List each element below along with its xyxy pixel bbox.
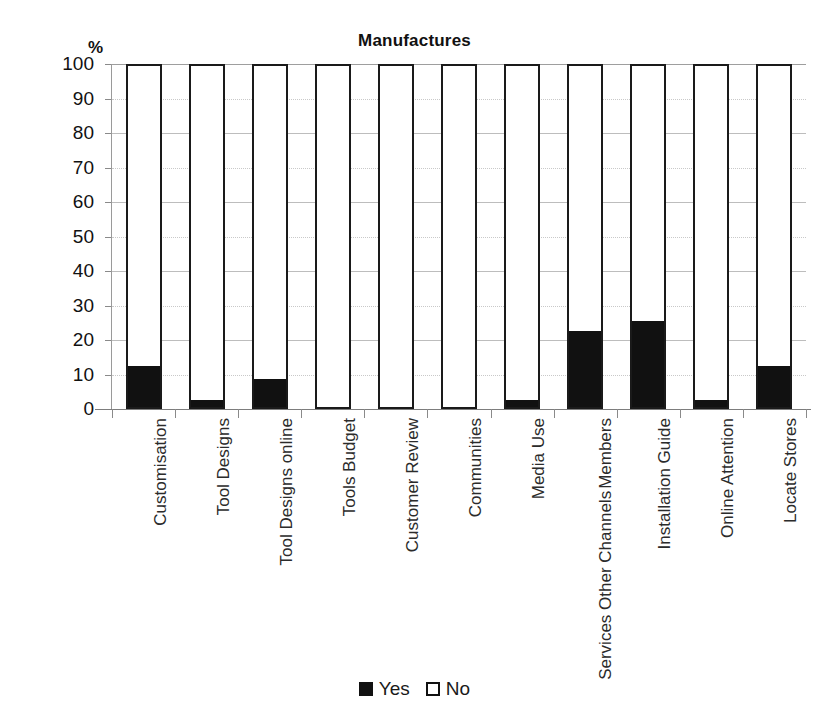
bar-segment-no[interactable] [126, 64, 162, 409]
category-label: Communities [467, 418, 485, 517]
bar-segment-yes[interactable] [758, 366, 790, 407]
legend-item-yes[interactable]: Yes [359, 678, 410, 700]
y-tick-label-60: 60 [73, 191, 94, 213]
bar-segment-no[interactable] [567, 64, 603, 409]
legend-label: No [446, 678, 470, 700]
legend-swatch-yes [359, 682, 373, 696]
y-tick-label-10: 10 [73, 364, 94, 386]
chart-title: Manufactures [0, 31, 829, 51]
x-tick [491, 409, 492, 418]
bar-segment-yes[interactable] [128, 366, 160, 407]
bar-segment-yes[interactable] [695, 400, 727, 407]
x-axis-category-labels: CustomisationTool DesignsTool Designs on… [112, 418, 806, 658]
x-tick [238, 409, 239, 418]
category-label: Tool Designs online [278, 418, 296, 565]
x-tick [806, 409, 807, 418]
bar-segment-yes[interactable] [632, 321, 664, 407]
bar-segment-no[interactable] [189, 64, 225, 409]
y-tick-label-40: 40 [73, 260, 94, 282]
y-tick-label-20: 20 [73, 329, 94, 351]
x-tick [364, 409, 365, 418]
category-label-line: Members [597, 418, 615, 489]
bar-group[interactable] [567, 64, 603, 409]
bar-segment-yes[interactable] [569, 331, 601, 407]
x-tick [427, 409, 428, 418]
bar-segment-yes[interactable] [254, 379, 286, 407]
y-tick-label-80: 80 [73, 122, 94, 144]
category-label: Customisation [152, 418, 170, 526]
category-label-line: Customer Review [403, 418, 422, 552]
bar-segment-no[interactable] [693, 64, 729, 409]
category-label: Installation Guide [656, 418, 674, 549]
category-label-line: Customisation [151, 418, 170, 526]
bar-segment-no[interactable] [504, 64, 540, 409]
category-label-line: Tool Designs [214, 418, 233, 515]
category-label-line: Installation Guide [655, 418, 674, 549]
bar-segment-no[interactable] [252, 64, 288, 409]
x-tick [175, 409, 176, 418]
y-tick-label-0: 0 [83, 398, 94, 420]
legend-swatch-no [426, 682, 440, 696]
y-tick-label-70: 70 [73, 157, 94, 179]
category-label: Media Use [530, 418, 548, 499]
bar-group[interactable] [315, 64, 351, 409]
category-label-line: Locate Stores [781, 418, 800, 523]
y-axis-tick-labels: 0102030405060708090100 [38, 64, 100, 409]
category-label: Customer Review [404, 418, 422, 552]
bar-group[interactable] [441, 64, 477, 409]
category-label: Tool Designs [215, 418, 233, 515]
chart-page: Manufactures % 0102030405060708090100 Cu… [0, 0, 829, 709]
bar-group[interactable] [126, 64, 162, 409]
category-label: Online Attention [719, 418, 737, 538]
x-tick [554, 409, 555, 418]
x-tick [301, 409, 302, 418]
bars-layer [112, 64, 806, 409]
y-tick-label-90: 90 [73, 88, 94, 110]
chart-legend: YesNo [0, 678, 829, 700]
x-axis-line [95, 409, 811, 410]
y-tick-label-30: 30 [73, 295, 94, 317]
bar-segment-no[interactable] [378, 64, 414, 409]
bar-segment-no[interactable] [441, 64, 477, 409]
category-label-line: Communities [466, 418, 485, 517]
bar-group[interactable] [378, 64, 414, 409]
bar-group[interactable] [693, 64, 729, 409]
y-tick-label-100: 100 [62, 53, 94, 75]
category-label-line: Tools Budget [340, 418, 359, 516]
bar-segment-no[interactable] [315, 64, 351, 409]
x-tick [617, 409, 618, 418]
category-label-line: Services Other Channels [597, 491, 615, 680]
bar-group[interactable] [630, 64, 666, 409]
x-tick [743, 409, 744, 418]
bar-segment-yes[interactable] [191, 400, 223, 407]
category-label-line: Online Attention [718, 418, 737, 538]
bar-segment-no[interactable] [630, 64, 666, 409]
bar-group[interactable] [252, 64, 288, 409]
category-label-line: Media Use [529, 418, 548, 499]
bar-group[interactable] [756, 64, 792, 409]
y-tick-label-50: 50 [73, 226, 94, 248]
category-label: Tools Budget [341, 418, 359, 516]
category-label-line: Tool Designs online [277, 418, 296, 565]
bar-segment-no[interactable] [756, 64, 792, 409]
x-tick [112, 409, 113, 418]
category-label: Locate Stores [782, 418, 800, 523]
legend-label: Yes [379, 678, 410, 700]
bar-segment-yes[interactable] [506, 400, 538, 407]
x-tick [680, 409, 681, 418]
bar-group[interactable] [189, 64, 225, 409]
bar-group[interactable] [504, 64, 540, 409]
category-label: Services Other ChannelsMembers [597, 418, 615, 680]
legend-item-no[interactable]: No [426, 678, 470, 700]
